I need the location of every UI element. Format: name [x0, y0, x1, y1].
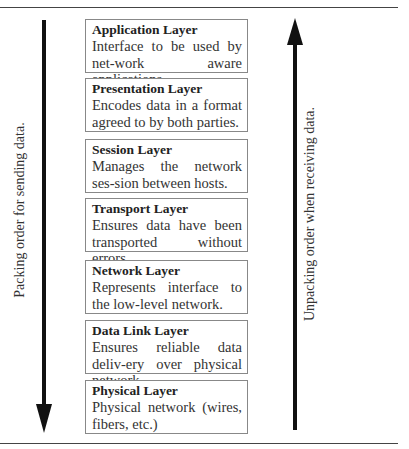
layer-description: Encodes data in a format agreed to by bo…: [92, 97, 242, 130]
layer-title: Network Layer: [92, 263, 242, 279]
layer-title: Transport Layer: [92, 201, 242, 217]
layer-physical: Physical Layer Physical network (wires, …: [85, 380, 248, 434]
packing-arrow-shaft: [42, 20, 46, 408]
layer-description: Represents interface to the low-level ne…: [92, 279, 242, 312]
layer-transport: Transport Layer Ensures data have been t…: [85, 198, 248, 252]
layer-application: Application Layer Interface to be used b…: [85, 19, 248, 73]
layer-title: Presentation Layer: [92, 81, 242, 97]
unpacking-label: Unpacking order when receiving data.: [302, 104, 318, 324]
bottom-rule: [0, 443, 398, 444]
layer-session: Session Layer Manages the network ses-si…: [85, 139, 248, 193]
top-rule: [0, 7, 398, 8]
unpacking-arrow-shaft: [293, 44, 297, 430]
layer-title: Application Layer: [92, 22, 242, 38]
layer-network: Network Layer Represents interface to th…: [85, 260, 248, 314]
arrow-down-icon: [36, 404, 52, 434]
layer-title: Data Link Layer: [92, 323, 242, 339]
layer-description: Manages the network ses-sion between hos…: [92, 158, 242, 191]
layer-description: Physical network (wires, fibers, etc.): [92, 399, 242, 432]
layer-title: Session Layer: [92, 142, 242, 158]
layer-data-link: Data Link Layer Ensures reliable data de…: [85, 320, 248, 374]
packing-label: Packing order for sending data.: [12, 120, 28, 300]
layer-presentation: Presentation Layer Encodes data in a for…: [85, 78, 248, 132]
arrow-up-icon: [287, 18, 303, 46]
layer-title: Physical Layer: [92, 383, 242, 399]
